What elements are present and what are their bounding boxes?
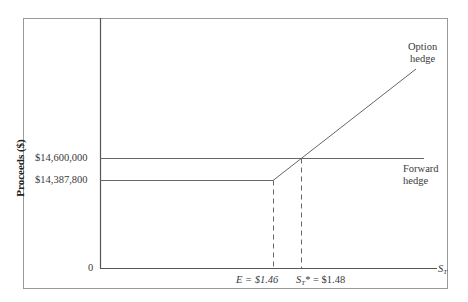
y-tick-label-high: $14,600,000 bbox=[35, 152, 88, 164]
x-tick-label-strike: E = $1.46 bbox=[236, 274, 278, 286]
forward-label-line2: hedge bbox=[403, 175, 439, 187]
option-hedge-label: Option hedge bbox=[408, 41, 437, 65]
strike-label-text: E = $1.46 bbox=[236, 274, 278, 285]
y-axis-label: Proceeds ($) bbox=[14, 139, 26, 197]
forward-label-line1: Forward bbox=[403, 163, 439, 175]
y-tick-label-zero: 0 bbox=[88, 262, 93, 274]
forward-hedge-label: Forward hedge bbox=[403, 163, 439, 187]
x-tick-label-breakeven: ST* = $1.48 bbox=[296, 274, 345, 289]
option-label-line1: Option bbox=[408, 41, 437, 53]
option-hedge-line bbox=[100, 69, 416, 181]
y-tick-label-low: $14,387,800 bbox=[35, 174, 88, 186]
x-sub: T bbox=[443, 268, 447, 276]
st-suffix: * = $1.48 bbox=[305, 274, 345, 285]
x-axis-label: ST bbox=[438, 263, 447, 278]
chart-canvas bbox=[0, 0, 468, 302]
option-label-line2: hedge bbox=[408, 53, 437, 65]
